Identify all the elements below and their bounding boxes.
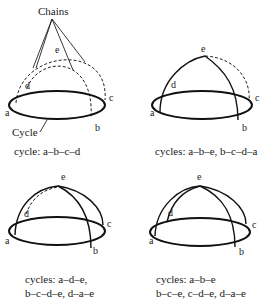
panel-1-caption: cycle: a–b–c–d (14, 144, 80, 158)
vertex-c: c (252, 219, 257, 230)
vertex-d: d (168, 207, 173, 218)
caption-line: cycle: a–b–c–d (14, 144, 80, 158)
arc-e-b (205, 56, 238, 120)
caption-line: cycles: a–b–e, b–c–d–a (155, 144, 257, 158)
cycle-pointer (40, 120, 47, 132)
vertex-b: b (95, 122, 100, 133)
vertex-d: d (25, 80, 30, 91)
vertex-a: a (5, 107, 10, 118)
vertex-e: e (55, 44, 60, 55)
vertex-d: d (24, 208, 29, 219)
panel-3-caption: cycles: a–d–e, b–c–d–e, d–a–e (25, 272, 94, 300)
vertex-a: a (150, 107, 155, 118)
vertex-c: c (255, 92, 260, 103)
caption-line: cycles: a–b–e (156, 272, 246, 286)
panel-1: Chains Cycle e d a c b (5, 5, 114, 138)
arc-a-e (160, 56, 205, 112)
vertex-c: c (107, 218, 112, 229)
panel-2-caption: cycles: a–b–e, b–c–d–a (155, 144, 257, 158)
vertex-a: a (5, 235, 10, 246)
vertex-e: e (61, 171, 66, 182)
panel-4: e d a c b (149, 171, 257, 257)
chains-label: Chains (38, 5, 69, 17)
dashed-arc-d-e (26, 187, 58, 214)
caption-line: b–c–e, c–d–e, d–a–e (156, 286, 246, 300)
panel-4-caption: cycles: a–b–e b–c–e, c–d–e, d–a–e (156, 272, 246, 300)
vertex-b: b (239, 246, 244, 257)
panel-2: e d a c b (150, 43, 260, 133)
cycle-ring (150, 218, 250, 246)
cycle-label: Cycle (12, 126, 38, 138)
panel-3: e d a c b (5, 171, 112, 256)
vertex-d: d (171, 79, 176, 90)
arc-a-e (155, 186, 200, 236)
vertex-a: a (149, 235, 154, 246)
arc-a-e (15, 186, 58, 235)
caption-line: cycles: a–d–e, (25, 272, 94, 286)
caption-line: b–c–d–e, d–a–e (25, 286, 94, 300)
vertex-e: e (201, 43, 206, 54)
cycle-ring (9, 217, 105, 245)
vertex-e: e (197, 171, 202, 182)
vertex-b: b (242, 122, 247, 133)
vertex-c: c (109, 92, 114, 103)
vertex-b: b (93, 245, 98, 256)
arc-e-b (200, 186, 235, 247)
